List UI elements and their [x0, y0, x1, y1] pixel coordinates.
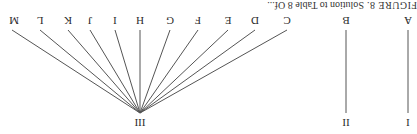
caption-text: Solution to Table 8 Of...: [267, 0, 364, 11]
leaf-M: M: [9, 15, 19, 27]
leaf-B: B: [342, 15, 349, 27]
node-II: II: [342, 117, 350, 129]
node-III: III: [134, 117, 145, 129]
leaf-A: A: [404, 15, 412, 27]
leaf-E: E: [224, 15, 231, 27]
node-labels: III II I: [134, 117, 410, 129]
leaf-labels: A B C D E F G H I J K L M: [9, 15, 412, 27]
leaf-L: L: [36, 15, 43, 27]
tree-diagram: III II I A B C D E F G H I J K L M: [0, 0, 417, 134]
leaf-I: I: [113, 15, 117, 27]
leaf-H: H: [136, 15, 144, 27]
node-I: I: [406, 117, 410, 129]
leaf-D: D: [251, 15, 259, 27]
figure: III II I A B C D E F G H I J K L M FIGUR…: [0, 0, 417, 134]
leaf-C: C: [283, 15, 290, 27]
figure-caption: FIGURE 8. Solution to Table 8 Of...: [177, 0, 417, 11]
leaf-F: F: [195, 15, 201, 27]
leaf-G: G: [166, 15, 174, 27]
leaf-K: K: [64, 15, 72, 27]
leaf-J: J: [87, 15, 92, 27]
tree-edges: [12, 30, 408, 113]
figure-label: FIGURE 8.: [366, 0, 417, 11]
